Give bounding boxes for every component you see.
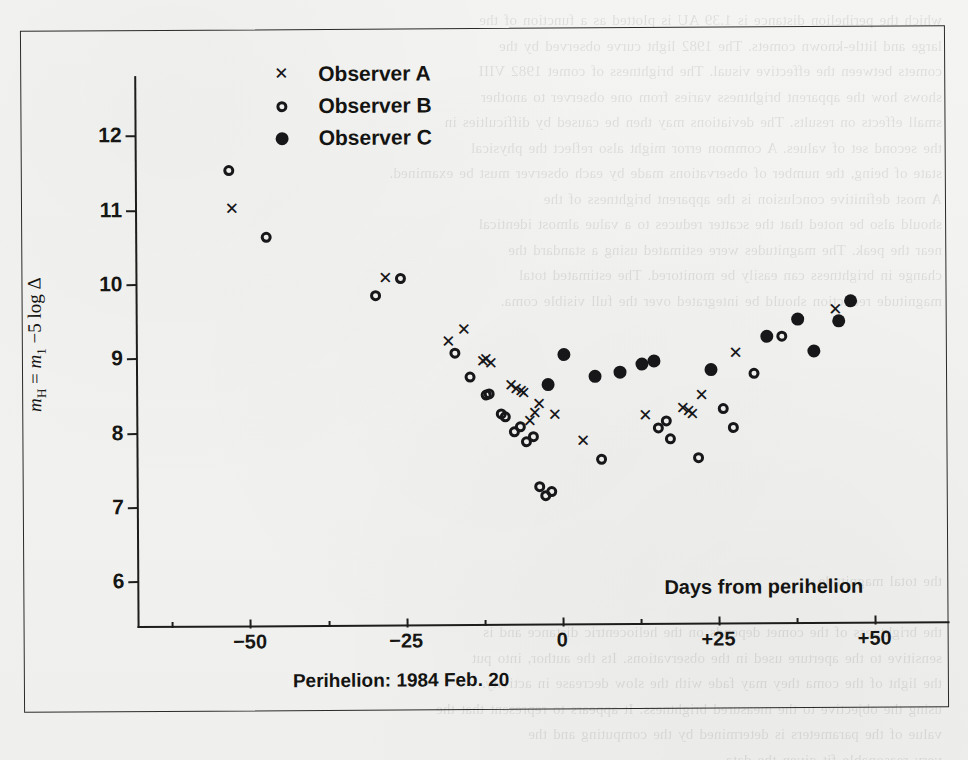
x-tick-50 <box>875 616 877 625</box>
y-axis-line <box>134 76 139 628</box>
data-point-series-2 <box>635 358 648 371</box>
x-tick-minor <box>796 618 798 624</box>
data-point-series-1 <box>449 347 460 358</box>
x-tick-label-50: +50 <box>840 626 910 649</box>
legend-item-1: Observer B <box>264 89 431 122</box>
data-point-series-0: ✕ <box>457 323 471 337</box>
y-tick-label-11: 11 <box>84 198 122 222</box>
data-point-series-0: ✕ <box>694 389 708 403</box>
x-tick-25 <box>718 617 720 626</box>
y-tick-label-6: 6 <box>86 570 124 594</box>
x-axis-line <box>138 621 950 628</box>
plot-area: 6789101112 −50−250+25+50 mH = m1 −5 log … <box>21 26 948 712</box>
data-point-series-1 <box>777 330 788 341</box>
data-point-series-1 <box>261 232 272 243</box>
data-point-series-1 <box>660 415 671 426</box>
x-tick-label--25: −25 <box>371 629 441 652</box>
data-point-series-1 <box>223 165 234 176</box>
legend-marker-open-circle <box>264 101 298 112</box>
y-tick-12 <box>126 136 136 138</box>
data-point-series-1 <box>749 368 760 379</box>
data-point-series-0: ✕ <box>576 434 590 448</box>
data-point-series-1 <box>718 403 729 414</box>
x-axis-title: Days from perihelion <box>664 575 863 599</box>
data-point-series-2 <box>557 348 570 361</box>
legend: ✕Observer AObserver BObserver C <box>264 57 432 154</box>
data-point-series-0: ✕ <box>638 409 652 423</box>
y-tick-label-12: 12 <box>83 124 121 148</box>
data-point-series-2 <box>832 314 845 327</box>
data-point-series-2 <box>704 363 717 376</box>
y-tick-label-9: 9 <box>85 347 123 371</box>
data-markers: ✕✕✕✕✕✕✕✕✕✕✕✕✕✕✕✕✕✕✕✕✕✕✕ <box>21 26 944 32</box>
data-point-series-2 <box>844 294 857 307</box>
marker-filled-circle <box>275 132 288 145</box>
x-tick-minor <box>172 622 174 628</box>
data-point-series-1 <box>665 433 676 444</box>
data-point-series-1 <box>484 388 495 399</box>
data-point-series-1 <box>528 431 539 442</box>
data-point-series-1 <box>515 421 526 432</box>
data-point-series-0: ✕ <box>484 357 498 371</box>
x-tick-minor <box>484 620 486 626</box>
data-point-series-1 <box>465 372 476 383</box>
y-tick-10 <box>126 284 136 286</box>
y-tick-9 <box>127 359 137 361</box>
data-point-series-0: ✕ <box>728 346 742 360</box>
marker-cross: ✕ <box>274 67 288 81</box>
legend-marker-cross: ✕ <box>264 67 298 81</box>
x-tick--25 <box>406 618 408 627</box>
data-point-series-0: ✕ <box>516 386 530 400</box>
x-tick-minor <box>328 621 330 627</box>
data-point-series-2 <box>542 378 555 391</box>
x-tick-minor <box>640 619 642 625</box>
data-point-series-2 <box>760 330 773 343</box>
y-tick-label-8: 8 <box>85 421 123 445</box>
y-tick-8 <box>127 433 137 435</box>
marker-open-circle <box>276 101 287 112</box>
x-tick--50 <box>250 619 252 628</box>
y-tick-label-10: 10 <box>84 272 122 296</box>
data-point-series-0: ✕ <box>532 397 546 411</box>
data-point-series-0: ✕ <box>378 272 392 286</box>
y-tick-6 <box>128 582 138 584</box>
data-point-series-1 <box>596 454 607 465</box>
x-tick-label--50: −50 <box>215 630 285 653</box>
data-point-series-2 <box>589 370 602 383</box>
perihelion-date-note: Perihelion: 1984 Feb. 20 <box>293 669 510 692</box>
legend-item-0: ✕Observer A <box>264 57 431 90</box>
legend-label-0: Observer A <box>318 61 431 86</box>
x-tick-label-25: +25 <box>683 627 753 650</box>
y-tick-label-7: 7 <box>86 495 124 519</box>
data-point-series-2 <box>791 312 804 325</box>
data-point-series-0: ✕ <box>685 408 699 422</box>
data-point-series-1 <box>370 291 381 302</box>
data-point-series-2 <box>614 365 627 378</box>
legend-item-2: Observer C <box>264 121 431 154</box>
data-point-series-1 <box>727 422 738 433</box>
x-axis-ticks: −50−250+25+50 <box>21 26 944 32</box>
y-axis-ticks: 6789101112 <box>21 26 944 32</box>
legend-label-2: Observer C <box>319 125 432 150</box>
data-point-series-1 <box>499 412 510 423</box>
data-point-series-2 <box>807 344 820 357</box>
x-tick-label-0: 0 <box>527 628 597 651</box>
y-tick-11 <box>126 210 136 212</box>
data-point-series-2 <box>648 355 661 368</box>
data-point-series-0: ✕ <box>548 408 562 422</box>
y-tick-7 <box>128 507 138 509</box>
data-point-series-0: ✕ <box>225 202 239 216</box>
x-tick-0 <box>562 618 564 627</box>
data-point-series-1 <box>395 273 406 284</box>
data-point-series-1 <box>547 486 558 497</box>
legend-marker-filled-circle <box>265 132 299 145</box>
figure-frame: 6789101112 −50−250+25+50 mH = m1 −5 log … <box>20 25 949 713</box>
data-point-series-1 <box>693 452 704 463</box>
legend-label-1: Observer B <box>318 93 431 118</box>
y-axis-title: mH = m1 −5 log Δ <box>23 135 51 555</box>
